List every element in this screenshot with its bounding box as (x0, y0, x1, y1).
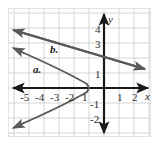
coordinate-plane (0, 0, 159, 145)
x-tick-label-minus1: 1 (82, 92, 88, 103)
y-axis-label: y (108, 14, 113, 25)
curve-label-b: b. (50, 44, 58, 55)
graph-figure: -5 -4 -3 -2 1 2 1 4 3 1 -1 -2 x y a. b. (0, 0, 159, 145)
y-tick-label-3: 3 (95, 39, 101, 50)
y-tick-label-1: 1 (95, 69, 101, 80)
y-tick-label-minus2: -2 (90, 114, 99, 125)
x-tick-label-minus5: -5 (20, 92, 29, 103)
x-axis-label: x (145, 91, 150, 102)
y-tick-label-4: 4 (95, 24, 101, 35)
x-tick-label-minus2: -2 (65, 92, 74, 103)
x-tick-label-minus4: -4 (35, 92, 44, 103)
x-tick-label-minus3: -3 (50, 92, 59, 103)
curve-label-a: a. (33, 64, 41, 75)
x-tick-label-2: 2 (132, 92, 138, 103)
y-tick-label-minus1: -1 (90, 99, 99, 110)
x-tick-label-1: 1 (117, 92, 123, 103)
